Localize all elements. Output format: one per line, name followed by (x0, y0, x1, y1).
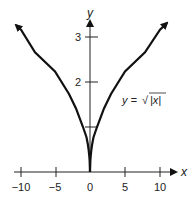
y-axis-label: y (86, 6, 94, 20)
chart: −10 −5 0 5 10 3 2 x y y = √ |x| (0, 0, 193, 205)
x-tick-label: −5 (49, 181, 62, 193)
y-tick-label: 3 (75, 31, 81, 43)
x-axis-label: x (180, 165, 188, 179)
y-ticks (85, 37, 98, 127)
svg-text:|x|: |x| (150, 94, 161, 106)
equation-label: y = √ |x| (121, 93, 166, 106)
svg-text:√: √ (142, 94, 149, 106)
x-tick-label: −10 (12, 181, 31, 193)
svg-text:y =: y = (121, 94, 138, 106)
curve-left (16, 25, 90, 172)
x-tick-label: 0 (87, 181, 93, 193)
y-tick-label: 2 (75, 76, 81, 88)
x-tick-label: 10 (154, 181, 166, 193)
x-tick-label: 5 (122, 181, 128, 193)
